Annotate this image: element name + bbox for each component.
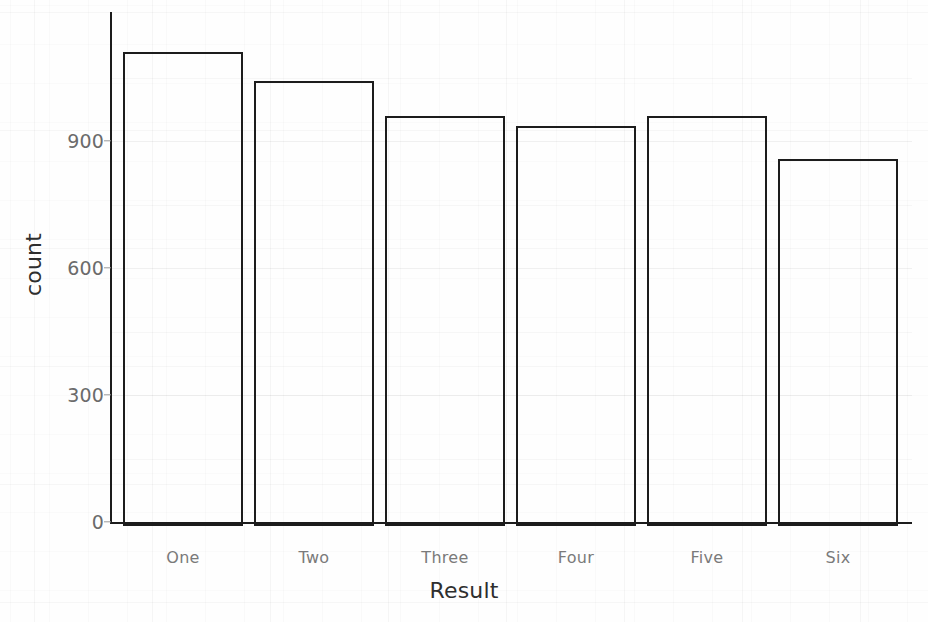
x-tick-label: Six <box>778 548 898 567</box>
y-tick-mark <box>104 521 111 522</box>
bar[interactable] <box>778 159 898 526</box>
x-axis-title: Result <box>0 578 928 603</box>
y-tick-label: 300 <box>67 384 104 406</box>
x-axis-line <box>110 522 912 524</box>
y-tick-label: 900 <box>67 130 104 152</box>
y-tick-mark <box>104 140 111 141</box>
y-axis-tick-labels: 0300600900 <box>56 0 104 622</box>
bar[interactable] <box>254 81 374 526</box>
y-tick-mark <box>104 267 111 268</box>
bar[interactable] <box>385 116 505 526</box>
bar[interactable] <box>123 52 243 526</box>
x-tick-label: One <box>123 548 243 567</box>
chart-page: 0300600900 OneTwoThreeFourFiveSix count … <box>0 0 928 622</box>
y-tick-label: 600 <box>67 257 104 279</box>
plot-panel <box>112 12 912 524</box>
y-axis-title: count <box>21 185 46 345</box>
bar[interactable] <box>647 116 767 526</box>
y-tick-label: 0 <box>92 511 104 533</box>
y-tick-mark <box>104 394 111 395</box>
x-tick-label: Four <box>516 548 636 567</box>
bar[interactable] <box>516 126 636 526</box>
x-tick-label: Three <box>385 548 505 567</box>
x-tick-label: Five <box>647 548 767 567</box>
x-tick-label: Two <box>254 548 374 567</box>
